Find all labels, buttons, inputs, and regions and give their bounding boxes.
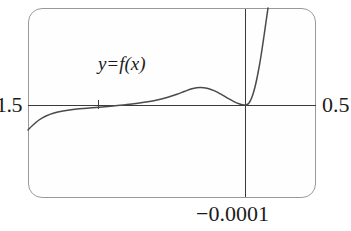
x-axis-right-endpoint-label: 0.5	[322, 94, 350, 116]
calculator-screen-frame	[28, 8, 316, 198]
curve-equation-rhs: f(x)	[119, 53, 145, 74]
x-axis-tick-mark	[98, 100, 99, 109]
x-axis	[28, 105, 316, 106]
graph-figure: 1.5 0.5 −0.0001 y=f(x)	[0, 0, 351, 231]
curve-equation-label: y=f(x)	[98, 54, 146, 73]
y-axis	[245, 9, 246, 197]
curve-equation-operator: =	[106, 53, 119, 74]
y-axis-min-label: −0.0001	[196, 203, 269, 225]
x-axis-left-endpoint-label: 1.5	[0, 94, 22, 116]
